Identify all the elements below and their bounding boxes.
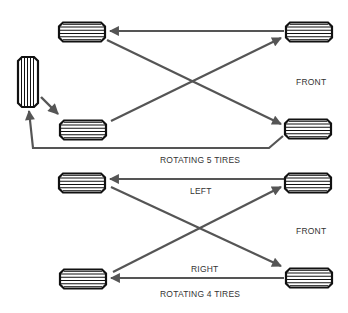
tire-left-bottom-icon (60, 121, 106, 140)
title-rotating-4-tires: ROTATING 4 TIRES (160, 289, 240, 299)
section-rotating-5-tires (18, 23, 332, 149)
tire-left-top-icon (59, 174, 105, 193)
arrow-spare-to-left-bottom (41, 97, 58, 114)
tire-right-top-icon (285, 174, 331, 193)
tire-right-bottom-icon (285, 120, 331, 139)
front-label-4-tires: FRONT (296, 226, 326, 236)
tire-right-bottom-icon (286, 269, 332, 288)
front-label-5-tires: FRONT (296, 77, 326, 87)
title-rotating-5-tires: ROTATING 5 TIRES (160, 155, 240, 165)
tire-left-bottom-icon (60, 270, 106, 289)
tire-right-top-icon (286, 23, 332, 42)
right-side-label: RIGHT (191, 264, 218, 274)
tire-spare-icon (18, 57, 38, 107)
tire-left-top-icon (59, 23, 105, 42)
left-side-label: LEFT (190, 186, 212, 196)
arrow-left-bottom-to-right-top (111, 38, 281, 121)
